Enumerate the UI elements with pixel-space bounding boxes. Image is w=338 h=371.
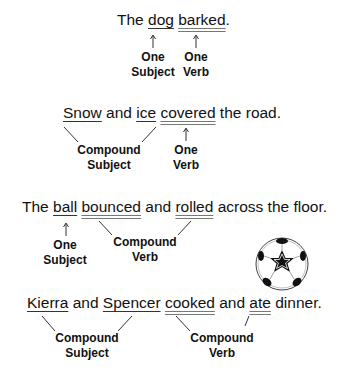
soccer-ball-icon (254, 236, 310, 292)
connector-lines (0, 0, 338, 371)
